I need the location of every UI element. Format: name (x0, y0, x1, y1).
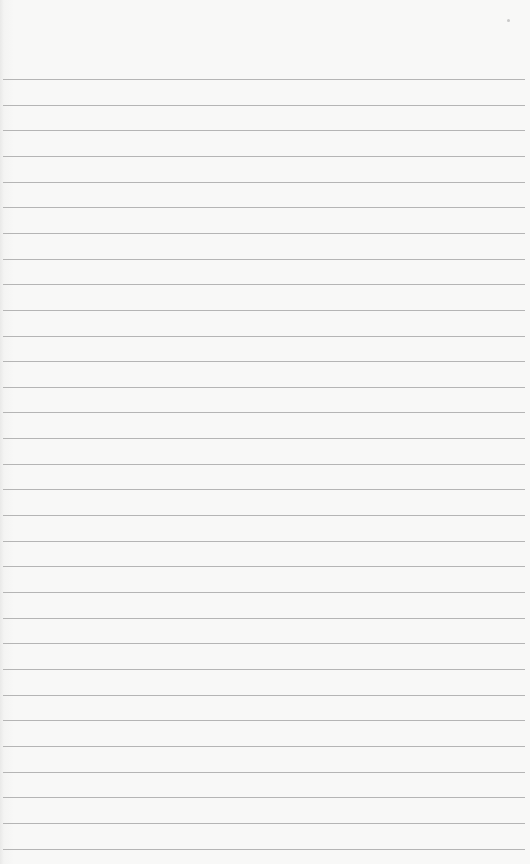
ruled-line (3, 746, 525, 747)
ruled-line (3, 823, 525, 824)
ruled-line (3, 669, 525, 670)
ruled-line (3, 592, 525, 593)
ruled-line (3, 643, 525, 644)
ruled-line (3, 387, 525, 388)
ruled-line (3, 361, 525, 362)
ruled-line (3, 464, 525, 465)
ruled-line (3, 720, 525, 721)
ruled-line (3, 618, 525, 619)
paper-speck (507, 19, 510, 22)
ruled-line (3, 310, 525, 311)
ruled-line (3, 207, 525, 208)
ruled-line (3, 336, 525, 337)
ruled-line (3, 797, 525, 798)
ruled-line (3, 233, 525, 234)
ruled-line (3, 284, 525, 285)
ruled-line (3, 849, 525, 850)
ruled-line (3, 259, 525, 260)
ruled-line (3, 772, 525, 773)
ruled-line (3, 182, 525, 183)
ruled-line (3, 566, 525, 567)
ruled-line (3, 79, 525, 80)
ruled-line (3, 412, 525, 413)
ruled-line (3, 438, 525, 439)
lined-paper (0, 0, 530, 864)
ruled-line (3, 130, 525, 131)
ruled-line (3, 695, 525, 696)
ruled-line (3, 156, 525, 157)
ruled-line (3, 489, 525, 490)
ruled-line (3, 105, 525, 106)
ruled-line (3, 515, 525, 516)
ruled-line (3, 541, 525, 542)
